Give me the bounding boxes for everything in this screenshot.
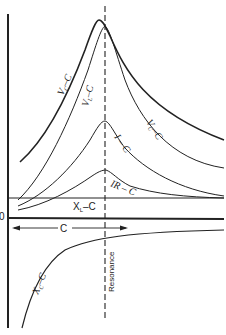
- vl-curve: [18, 26, 224, 200]
- xc-curve: [22, 230, 224, 328]
- resonance-label: Resonance: [107, 251, 116, 292]
- ir-label: IR – C: [108, 177, 138, 197]
- x-axis-zero: [8, 218, 224, 219]
- vc-left-label: VC–C: [55, 72, 75, 97]
- i-label: I – C: [112, 131, 133, 155]
- c-axis-label: C: [60, 223, 67, 234]
- xl-label: XL–C: [73, 201, 96, 213]
- resonance-diagram: 0 Resonance C XL–C VC–C VL–C VC–C I – C …: [0, 0, 226, 335]
- zero-label: 0: [0, 211, 5, 222]
- xc-label: XC–C: [29, 271, 49, 297]
- c-arrow: C: [12, 222, 128, 234]
